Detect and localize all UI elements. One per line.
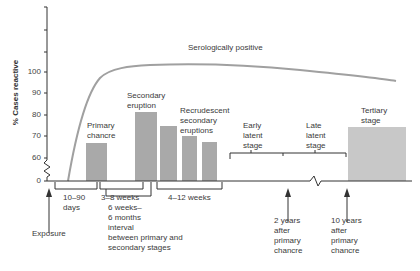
bar-secondary-eruption: [135, 112, 157, 181]
bar-recrudescent-1: [160, 126, 177, 181]
early-latent-label: Early latent stage: [243, 121, 263, 151]
interval-4-12-weeks: 4–12 weeks: [168, 193, 211, 203]
bar-recrudescent-2: [182, 136, 197, 181]
exposure-label: Exposure: [32, 229, 66, 239]
interval-6-weeks-6-months: 6 weeks– 6 months interval between prima…: [108, 203, 183, 253]
bar-recrudescent-3: [202, 142, 217, 181]
two-years-label: 2 years after primary chancre: [274, 216, 302, 256]
interval-10-90-days: 10–90 days: [63, 193, 85, 213]
ten-years-label: 10 years after primary chancre: [331, 216, 362, 256]
tick-80: 80: [17, 110, 41, 119]
tick-60: 60: [17, 153, 41, 162]
secondary-eruption-label: Secondary eruption: [127, 91, 165, 111]
primary-chancre-label: Primary chancre: [87, 121, 115, 141]
bar-tertiary: [348, 127, 406, 181]
serologically-positive-label: Serologically positive: [188, 43, 263, 53]
bar-primary-chancre: [86, 143, 107, 181]
serology-curve: [68, 64, 396, 181]
recrudescent-label: Recrudescent secondary eruptions: [180, 106, 229, 136]
tick-70: 70: [17, 131, 41, 140]
interval-3-8-weeks: 3–8 weeks: [101, 193, 139, 203]
exposure-arrowhead: [46, 188, 52, 197]
tick-0: 0: [17, 176, 41, 185]
two-years-arrowhead: [285, 188, 291, 197]
tertiary-label: Tertiary stage: [361, 106, 387, 126]
late-latent-label: Late latent stage: [306, 121, 326, 151]
tick-90: 90: [17, 88, 41, 97]
tick-100: 100: [17, 67, 41, 76]
y-axis: [44, 7, 50, 181]
ten-years-arrowhead: [344, 188, 350, 197]
